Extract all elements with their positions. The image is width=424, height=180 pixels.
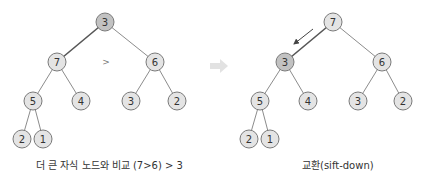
- edge-3-6: [105, 22, 155, 62]
- svg-text:4: 4: [78, 96, 84, 107]
- tree-node: 2: [394, 92, 412, 110]
- tree-node: 7: [324, 13, 342, 31]
- tree-node: 4: [72, 92, 90, 110]
- svg-text:2: 2: [246, 134, 252, 145]
- svg-text:4: 4: [305, 96, 311, 107]
- tree-node: 3: [96, 13, 114, 31]
- svg-text:3: 3: [102, 17, 108, 28]
- svg-text:3: 3: [282, 57, 288, 68]
- tree-node: 3: [349, 92, 367, 110]
- tree-node: 3: [122, 92, 140, 110]
- svg-text:7: 7: [54, 57, 60, 68]
- left-caption: 더 큰 자식 노드와 비교 (7>6) > 3: [36, 157, 183, 172]
- svg-text:1: 1: [267, 134, 273, 145]
- tree-node: 2: [168, 92, 186, 110]
- svg-text:3: 3: [128, 96, 134, 107]
- left-tree-edges: [22, 22, 177, 139]
- right-tree-edges: [249, 22, 403, 139]
- left-tree-nodes: 3 7 6 5 4 3 2 2 1: [13, 13, 186, 148]
- tree-node: 5: [24, 92, 42, 110]
- tree-node: 6: [146, 53, 164, 71]
- transition-arrow-icon: [210, 59, 228, 73]
- right-caption: 교환(sift-down): [302, 157, 374, 172]
- svg-text:3: 3: [355, 96, 361, 107]
- tree-node: 7: [48, 53, 66, 71]
- svg-text:1: 1: [40, 134, 46, 145]
- svg-text:6: 6: [152, 57, 158, 68]
- svg-text:5: 5: [257, 96, 263, 107]
- right-tree-nodes: 7 3 6 5 4 3 2 2 1: [240, 13, 412, 148]
- tree-node: 4: [299, 92, 317, 110]
- svg-text:2: 2: [19, 134, 25, 145]
- tree-node: 1: [34, 130, 52, 148]
- tree-node: 6: [373, 53, 391, 71]
- svg-text:6: 6: [379, 57, 385, 68]
- tree-node: 2: [240, 130, 258, 148]
- tree-node: 2: [13, 130, 31, 148]
- tree-node: 1: [261, 130, 279, 148]
- svg-text:7: 7: [330, 17, 336, 28]
- tree-node: 5: [251, 92, 269, 110]
- heap-sift-down-diagram: 3 7 6 5 4 3 2 2 1 > 7 3 6 5 4 3 2 2 1: [0, 0, 424, 180]
- comparison-symbol: >: [102, 57, 110, 67]
- svg-text:2: 2: [174, 96, 180, 107]
- tree-node: 3: [276, 53, 294, 71]
- svg-text:2: 2: [400, 96, 406, 107]
- svg-text:5: 5: [30, 96, 36, 107]
